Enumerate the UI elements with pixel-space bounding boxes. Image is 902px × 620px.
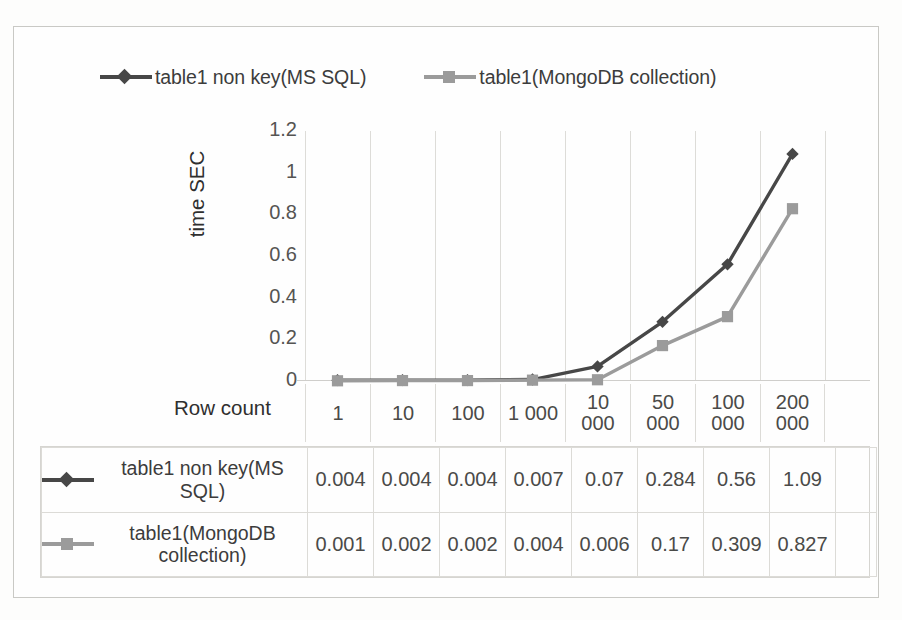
table-value-cell: 0.004 — [440, 448, 506, 513]
table-empty-cell — [836, 512, 877, 577]
y-axis-tick-label: 0.6 — [231, 243, 297, 266]
y-axis-title: time SEC — [185, 139, 209, 249]
x-axis-category-1000: 1 000 — [500, 384, 565, 442]
series-line-mongodb — [338, 209, 793, 381]
y-axis-tick-label: 0.4 — [231, 285, 297, 308]
table-row: table1(MongoDB collection)0.0010.0020.00… — [42, 512, 877, 577]
x-axis-category-50000: 50000 — [630, 384, 695, 442]
table-series-name: table1(MongoDB collection) — [98, 522, 307, 567]
plot-area — [305, 131, 870, 381]
table-value-cell: 0.002 — [440, 512, 506, 577]
y-axis-tick-label: 0.2 — [231, 326, 297, 349]
x-axis-category-10000: 10000 — [565, 384, 630, 442]
scanned-page: table1 non key(MS SQL) table1(MongoDB co… — [0, 0, 902, 620]
data-point-marker — [657, 340, 668, 351]
table-marker-square-icon — [42, 536, 94, 552]
table-series-name: table1 non key(MS SQL) — [98, 457, 307, 502]
table-value-cell: 0.07 — [572, 448, 638, 513]
y-axis-tick-label: 0.8 — [231, 201, 297, 224]
table-value-cell: 0.17 — [638, 512, 704, 577]
table-value-cell: 0.002 — [374, 512, 440, 577]
table-value-cell: 0.827 — [770, 512, 836, 577]
legend-entry-ms-sql[interactable]: table1 non key(MS SQL) — [100, 66, 366, 89]
x-axis-category-100: 100 — [435, 384, 500, 442]
legend-label-mongodb: table1(MongoDB collection) — [479, 66, 716, 89]
data-point-marker — [787, 203, 798, 214]
table-value-cell: 0.004 — [374, 448, 440, 513]
table-series-label-cell: table1 non key(MS SQL) — [42, 448, 308, 513]
y-axis-tick-label: 0 — [231, 368, 297, 391]
data-point-marker — [722, 311, 733, 322]
table-value-cell: 0.309 — [704, 512, 770, 577]
y-axis-tick-label: 1 — [231, 160, 297, 183]
table-value-cell: 0.004 — [506, 512, 572, 577]
table-value-cell: 0.001 — [308, 512, 374, 577]
table-empty-cell — [836, 448, 877, 513]
legend-marker-diamond-icon — [100, 69, 152, 85]
table-row: table1 non key(MS SQL)0.0040.0040.0040.0… — [42, 448, 877, 513]
table-value-cell: 1.09 — [770, 448, 836, 513]
legend-label-ms-sql: table1 non key(MS SQL) — [155, 66, 366, 89]
chart-legend: table1 non key(MS SQL) table1(MongoDB co… — [100, 62, 800, 92]
x-axis-category-1: 1 — [305, 384, 370, 442]
table-value-cell: 0.56 — [704, 448, 770, 513]
x-axis-categories: 1101001 0001000050000100000200000 — [305, 384, 870, 442]
legend-marker-square-icon — [424, 69, 476, 85]
table-series-label-cell: table1(MongoDB collection) — [42, 512, 308, 577]
series-lines — [305, 131, 870, 381]
legend-entry-mongodb[interactable]: table1(MongoDB collection) — [424, 66, 716, 89]
x-axis-category-10: 10 — [370, 384, 435, 442]
table-marker-diamond-icon — [42, 472, 94, 488]
y-axis-tick-label: 1.2 — [231, 118, 297, 141]
chart-data-table: table1 non key(MS SQL)0.0040.0040.0040.0… — [40, 446, 870, 578]
table-value-cell: 0.006 — [572, 512, 638, 577]
x-axis-title: Row count — [140, 396, 305, 420]
table-value-cell: 0.284 — [638, 448, 704, 513]
table-value-cell: 0.007 — [506, 448, 572, 513]
table-value-cell: 0.004 — [308, 448, 374, 513]
x-axis-category-200000: 200000 — [760, 384, 825, 442]
x-axis-category-100000: 100000 — [695, 384, 760, 442]
